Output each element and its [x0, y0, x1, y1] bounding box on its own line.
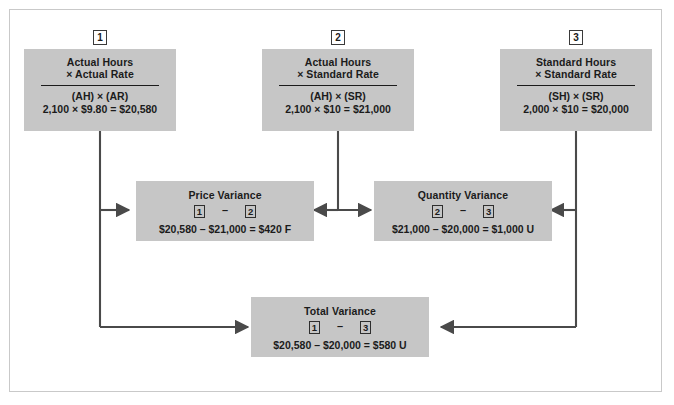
price-variance-title: Price Variance [136, 181, 314, 201]
diagram-canvas: 1 2 3 Actual Hours × Actual Rate (AH) × … [0, 0, 674, 405]
box-2-formula: (AH) × (SR) [262, 90, 414, 102]
box-standard-hours-standard-rate: Standard Hours × Standard Rate (SH) × (S… [500, 49, 652, 131]
box-2-title-line1: Actual Hours [305, 56, 372, 68]
quantity-variance-title: Quantity Variance [374, 181, 552, 201]
box-1-divider [41, 85, 159, 86]
box-1-title-line1: Actual Hours [67, 56, 134, 68]
box-price-variance: Price Variance 1 – 2 $20,580 – $21,000 =… [136, 181, 314, 241]
total-variance-operator: – [337, 320, 343, 333]
quantity-variance-calc: $21,000 – $20,000 = $1,000 U [374, 218, 552, 235]
quantity-variance-right-badge: 3 [483, 205, 494, 218]
box-total-variance: Total Variance 1 – 3 $20,580 – $20,000 =… [251, 297, 429, 357]
total-variance-left-badge: 1 [309, 321, 320, 334]
column-badge-1: 1 [93, 30, 107, 45]
quantity-variance-operands: 2 – 3 [374, 201, 552, 218]
box-3-title: Standard Hours × Standard Rate [500, 49, 652, 81]
box-3-divider [517, 85, 635, 86]
total-variance-calc: $20,580 – $20,000 = $580 U [251, 334, 429, 351]
box-3-title-line1: Standard Hours [536, 56, 616, 68]
quantity-variance-operator: – [460, 204, 466, 217]
box-1-calc: 2,100 × $9.80 = $20,580 [24, 102, 176, 115]
box-actual-hours-standard-rate: Actual Hours × Standard Rate (AH) × (SR)… [262, 49, 414, 131]
box-actual-hours-actual-rate: Actual Hours × Actual Rate (AH) × (AR) 2… [24, 49, 176, 131]
box-2-calc: 2,100 × $10 = $21,000 [262, 102, 414, 115]
box-1-title: Actual Hours × Actual Rate [24, 49, 176, 81]
box-2-title-line2: × Standard Rate [262, 68, 414, 80]
box-2-title: Actual Hours × Standard Rate [262, 49, 414, 81]
total-variance-right-badge: 3 [360, 321, 371, 334]
box-3-title-line2: × Standard Rate [500, 68, 652, 80]
box-quantity-variance: Quantity Variance 2 – 3 $21,000 – $20,00… [374, 181, 552, 241]
column-badge-2: 2 [331, 30, 345, 45]
quantity-variance-left-badge: 2 [432, 205, 443, 218]
box-2-divider [279, 85, 397, 86]
price-variance-left-badge: 1 [194, 205, 205, 218]
box-1-formula: (AH) × (AR) [24, 90, 176, 102]
price-variance-operands: 1 – 2 [136, 201, 314, 218]
total-variance-title: Total Variance [251, 297, 429, 317]
box-3-formula: (SH) × (SR) [500, 90, 652, 102]
price-variance-calc: $20,580 – $21,000 = $420 F [136, 218, 314, 235]
total-variance-operands: 1 – 3 [251, 317, 429, 334]
box-3-calc: 2,000 × $10 = $20,000 [500, 102, 652, 115]
column-badge-3: 3 [569, 30, 583, 45]
price-variance-right-badge: 2 [245, 205, 256, 218]
box-1-title-line2: × Actual Rate [24, 68, 176, 80]
price-variance-operator: – [222, 204, 228, 217]
